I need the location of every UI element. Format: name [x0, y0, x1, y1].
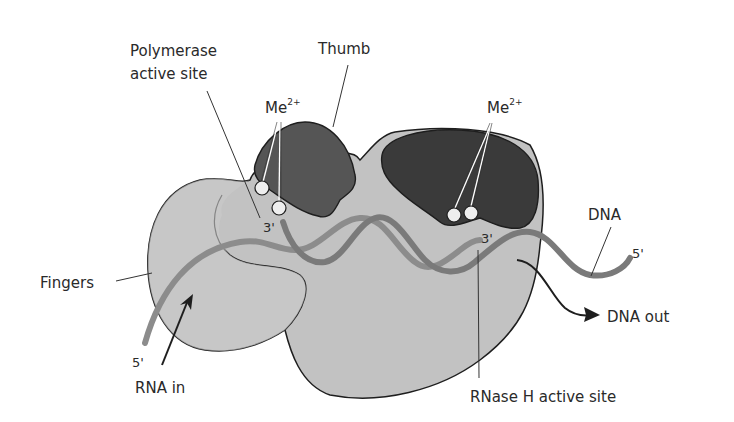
- metal-ion-icon: [464, 206, 478, 220]
- label-me-right: Me2+: [487, 97, 522, 117]
- thumb-leader: [333, 65, 348, 127]
- fingers-leader: [116, 273, 152, 281]
- label-me-left: Me2+: [265, 97, 300, 117]
- label-fingers: Fingers: [40, 274, 94, 292]
- label-dna-5prime: 5': [632, 246, 644, 261]
- label-polymerase-line2: active site: [130, 65, 207, 83]
- metal-ion-icon: [272, 201, 286, 215]
- label-rna-in: RNA in: [135, 379, 185, 397]
- label-rnase-h: RNase H active site: [470, 388, 616, 406]
- reverse-transcriptase-diagram: Polymerase active site Thumb Me2+ Me2+ D…: [0, 0, 734, 422]
- label-thumb: Thumb: [317, 40, 370, 58]
- label-polymerase-line1: Polymerase: [130, 42, 217, 60]
- dna-out-arrowhead: [584, 307, 600, 322]
- label-rna-5prime: 5': [132, 355, 144, 370]
- dna-leader: [591, 227, 611, 276]
- metal-ion-icon: [447, 208, 461, 222]
- label-3prime-left: 3': [263, 220, 275, 235]
- label-3prime-right: 3': [481, 231, 493, 246]
- metal-ion-icon: [255, 181, 269, 195]
- label-dna: DNA: [588, 206, 622, 224]
- label-dna-out: DNA out: [607, 308, 669, 326]
